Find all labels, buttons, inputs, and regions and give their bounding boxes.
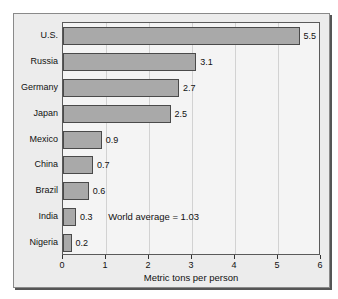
bar-nigeria xyxy=(63,234,72,252)
category-axis-labels: U.S.RussiaGermanyJapanMexicoChinaBrazilI… xyxy=(0,22,58,255)
bar-row: 0.7 xyxy=(63,156,321,174)
bar-us xyxy=(63,27,300,45)
category-label-nigeria: Nigeria xyxy=(4,237,58,247)
chart-figure: U.S.RussiaGermanyJapanMexicoChinaBrazilI… xyxy=(0,0,338,299)
bar-row: 0.6 xyxy=(63,182,321,200)
bar-row: 2.7 xyxy=(63,79,321,97)
x-tick-mark xyxy=(234,255,235,259)
x-tick-label: 1 xyxy=(102,260,107,270)
bar-value-label: 2.7 xyxy=(183,83,196,93)
category-label-us: U.S. xyxy=(4,30,58,40)
bar-russia xyxy=(63,53,196,71)
x-tick-mark xyxy=(277,255,278,259)
bar-japan xyxy=(63,105,171,123)
category-label-russia: Russia xyxy=(4,56,58,66)
bar-value-label: 0.2 xyxy=(76,238,89,248)
bar-value-label: 3.1 xyxy=(200,57,213,67)
bar-germany xyxy=(63,79,179,97)
bar-row: 0.9 xyxy=(63,131,321,149)
bar-row: 3.1 xyxy=(63,53,321,71)
bar-value-label: 0.9 xyxy=(106,135,119,145)
x-tick-label: 4 xyxy=(231,260,236,270)
bar-row: 2.5 xyxy=(63,105,321,123)
x-tick-label: 0 xyxy=(59,260,64,270)
x-tick-mark xyxy=(105,255,106,259)
category-label-mexico: Mexico xyxy=(4,134,58,144)
bar-value-label: 0.6 xyxy=(93,186,106,196)
category-label-brazil: Brazil xyxy=(4,185,58,195)
plot-area: 5.53.12.72.50.90.70.60.30.2 World averag… xyxy=(62,22,320,255)
bar-value-label: 5.5 xyxy=(304,31,317,41)
x-axis-ticks: 0123456 xyxy=(62,255,320,273)
x-tick-label: 6 xyxy=(317,260,322,270)
world-average-annotation: World average = 1.03 xyxy=(108,211,199,222)
bar-row: 0.2 xyxy=(63,234,321,252)
x-tick-label: 3 xyxy=(188,260,193,270)
category-label-india: India xyxy=(4,211,58,221)
x-axis-title: Metric tons per person xyxy=(62,272,320,283)
category-label-germany: Germany xyxy=(4,82,58,92)
x-tick-mark xyxy=(320,255,321,259)
bar-china xyxy=(63,156,93,174)
bar-row: 5.5 xyxy=(63,27,321,45)
x-tick-label: 5 xyxy=(274,260,279,270)
x-tick-mark xyxy=(191,255,192,259)
category-label-japan: Japan xyxy=(4,108,58,118)
bar-value-label: 0.3 xyxy=(80,212,93,222)
x-tick-label: 2 xyxy=(145,260,150,270)
bar-brazil xyxy=(63,182,89,200)
bar-india xyxy=(63,208,76,226)
x-tick-mark xyxy=(148,255,149,259)
bar-value-label: 2.5 xyxy=(175,109,188,119)
category-label-china: China xyxy=(4,159,58,169)
bar-mexico xyxy=(63,131,102,149)
bar-value-label: 0.7 xyxy=(97,160,110,170)
x-tick-mark xyxy=(62,255,63,259)
